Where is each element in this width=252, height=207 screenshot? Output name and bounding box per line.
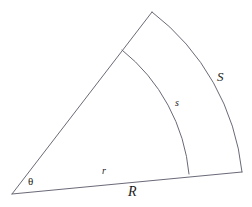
sector-diagram-figure: θ r R s S xyxy=(0,0,252,207)
bottom-radius-line xyxy=(12,172,242,194)
upper-radius-line xyxy=(12,12,152,194)
sector-diagram-canvas xyxy=(0,0,252,207)
outer-arc-path xyxy=(152,12,242,172)
outer-radius-label: R xyxy=(128,185,137,199)
inner-arc-label: s xyxy=(175,98,179,108)
angle-theta-label: θ xyxy=(28,176,33,187)
outer-arc-label: S xyxy=(217,70,224,83)
inner-arc-path xyxy=(122,50,189,174)
inner-radius-label: r xyxy=(102,166,106,176)
